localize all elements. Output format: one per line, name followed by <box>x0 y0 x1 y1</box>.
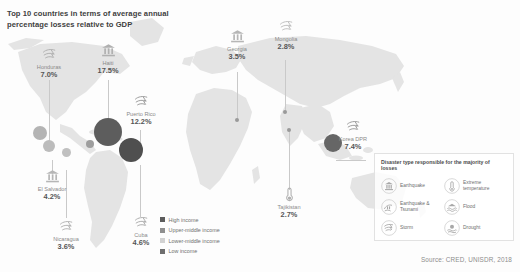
bubble-el-salvador <box>33 126 47 140</box>
storm-icon <box>41 46 58 63</box>
storm-icon <box>133 214 150 231</box>
disaster-legend-item-drought[interactable]: Drought <box>444 217 507 238</box>
country-value: 3.6% <box>35 243 97 252</box>
leader-line-mongolia <box>285 60 286 112</box>
country-value: 2.8% <box>255 43 317 52</box>
country-value: 12.2% <box>110 118 172 127</box>
callout-mongolia[interactable]: Mongolia 2.8% <box>255 18 317 52</box>
disaster-legend-item-earthquake-tsunami[interactable]: Earthquake & Tsunami <box>381 196 444 217</box>
map-dot-mongolia <box>283 110 287 114</box>
legend-swatch <box>160 228 165 233</box>
storm-icon <box>58 218 75 235</box>
earthquake-icon <box>44 168 61 185</box>
map-dot-georgia <box>235 118 239 122</box>
leader-line-honduras <box>49 80 50 144</box>
country-value: 7.0% <box>18 71 80 80</box>
disaster-legend-label: Drought <box>463 225 480 231</box>
earthquake-icon <box>100 42 117 59</box>
country-value: 7.4% <box>322 143 384 152</box>
storm-icon <box>381 220 397 236</box>
disaster-legend-label: Flood <box>463 204 475 210</box>
disaster-legend-label: Storm <box>400 225 413 231</box>
leader-line-cuba <box>140 165 141 217</box>
callout-nicaragua[interactable]: Nicaragua 3.6% <box>35 218 97 252</box>
disaster-legend-item-extreme-temperature[interactable]: Extreme temperature <box>444 175 507 196</box>
earthquake-icon <box>381 178 397 194</box>
disaster-legend-item-earthquake[interactable]: Earthquake <box>381 175 444 196</box>
country-value: 2.7% <box>258 211 320 220</box>
country-value: 3.5% <box>206 53 268 62</box>
legend-swatch <box>160 217 165 222</box>
disaster-legend-item-flood[interactable]: Flood <box>444 196 507 217</box>
page-title: Top 10 countries in terms of average ann… <box>7 9 207 30</box>
disaster-legend-box: Disaster type responsible for the majori… <box>374 153 514 241</box>
storm-icon <box>278 18 295 35</box>
extreme-temperature-icon <box>444 178 460 194</box>
legend-item-high-income[interactable]: High income <box>160 215 220 224</box>
storm-icon <box>133 93 150 110</box>
leader-line-georgia <box>237 72 238 120</box>
disaster-legend-item-storm[interactable]: Storm <box>381 217 444 238</box>
leader-line-korea-dpr <box>336 160 366 161</box>
legend-label: Upper-middle income <box>169 227 220 233</box>
legend-label: High income <box>169 217 199 223</box>
callout-tajikistan[interactable]: Tajikistan 2.7% <box>258 186 320 220</box>
drought-icon <box>444 220 460 236</box>
callout-korea-dpr[interactable]: Korea DPR 7.4% <box>322 118 384 152</box>
legend-item-low-income[interactable]: Low income <box>160 247 220 256</box>
bubble-nicaragua <box>62 148 71 157</box>
earthquake-tsunami-icon <box>381 199 397 215</box>
country-value: 17.5% <box>77 67 139 76</box>
legend-item-upper-middle-income[interactable]: Upper-middle income <box>160 226 220 235</box>
income-legend: High income Upper-middle income Lower-mi… <box>160 215 220 257</box>
source-credit: Source: CRED, UNISDR, 2018 <box>421 256 512 263</box>
country-value: 4.2% <box>21 193 83 202</box>
storm-icon <box>345 118 362 135</box>
map-dot-tajikistan <box>287 128 291 132</box>
infographic-canvas: Top 10 countries in terms of average ann… <box>0 0 520 272</box>
leader-line-haiti <box>108 80 109 122</box>
bubble-puerto-rico <box>119 138 143 162</box>
legend-swatch <box>160 249 165 254</box>
legend-item-lower-middle-income[interactable]: Lower-middle income <box>160 236 220 245</box>
callout-el-salvador[interactable]: El Salvador 4.2% <box>21 168 83 202</box>
leader-line-tajikistan <box>289 130 290 190</box>
disaster-legend-label: Extreme temperature <box>463 180 507 191</box>
disaster-legend-label: Earthquake & Tsunami <box>400 201 444 212</box>
flood-icon <box>444 199 460 215</box>
extreme-temperature-icon <box>281 186 298 203</box>
earthquake-icon <box>229 28 246 45</box>
callout-haiti[interactable]: Haiti 17.5% <box>77 42 139 76</box>
callout-puerto-rico[interactable]: Puerto Rico 12.2% <box>110 93 172 127</box>
disaster-legend-title: Disaster type responsible for the majori… <box>381 159 507 171</box>
legend-label: Low income <box>169 248 198 254</box>
legend-swatch <box>160 238 165 243</box>
legend-label: Lower-middle income <box>169 238 220 244</box>
disaster-legend-label: Earthquake <box>400 183 425 189</box>
bubble-cuba <box>86 140 94 148</box>
bubble-honduras <box>43 140 55 152</box>
callout-honduras[interactable]: Honduras 7.0% <box>18 46 80 80</box>
